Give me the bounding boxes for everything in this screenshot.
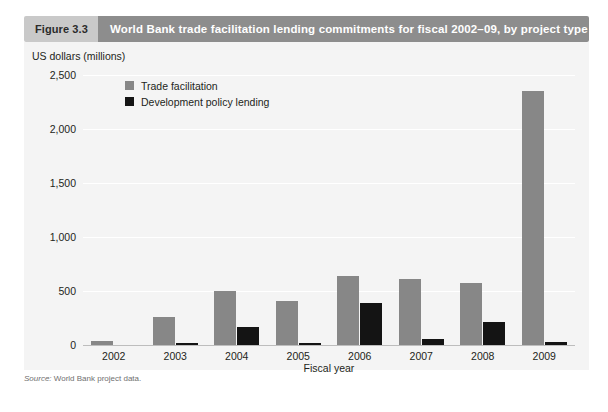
x-tick-label: 2003: [164, 350, 187, 362]
y-tick-label: 1,000: [50, 231, 76, 243]
x-tick-label: 2002: [102, 350, 125, 362]
bar: [337, 276, 359, 345]
x-tick-label: 2006: [348, 350, 371, 362]
figure-number-label: Figure 3.3: [24, 16, 98, 42]
bar: [91, 341, 113, 345]
bar-group: [452, 75, 514, 345]
legend-item: Trade facilitation: [125, 79, 269, 92]
bar-group: [206, 75, 268, 345]
x-tick-label: 2004: [225, 350, 248, 362]
bar: [545, 342, 567, 345]
bar: [299, 343, 321, 346]
x-tick-label: 2005: [287, 350, 310, 362]
x-tick-label: 2007: [410, 350, 433, 362]
legend-swatch-icon: [125, 81, 134, 90]
bar-group: [268, 75, 330, 345]
x-tick-label: 2009: [533, 350, 556, 362]
legend-label: Development policy lending: [141, 96, 269, 108]
bar: [483, 322, 505, 345]
chart-legend: Trade facilitationDevelopment policy len…: [125, 79, 269, 111]
source-note: Source: World Bank project data.: [24, 374, 141, 383]
legend-item: Development policy lending: [125, 95, 269, 108]
chart-panel: US dollars (millions) 05001,0001,5002,00…: [24, 42, 589, 370]
bar-group: [391, 75, 453, 345]
figure-container: Figure 3.3 World Bank trade facilitation…: [0, 0, 608, 412]
y-tick-label: 1,500: [50, 177, 76, 189]
bar: [522, 91, 544, 345]
bar-group: [514, 75, 576, 345]
bar-group: [329, 75, 391, 345]
bar: [237, 327, 259, 345]
source-prefix: Source:: [24, 374, 52, 383]
bar: [422, 339, 444, 345]
figure-header: Figure 3.3 World Bank trade facilitation…: [24, 16, 589, 42]
bar: [399, 279, 421, 345]
y-tick-label: 500: [58, 285, 76, 297]
bar: [276, 301, 298, 345]
x-tick-label: 2008: [471, 350, 494, 362]
bar: [360, 303, 382, 345]
y-axis-ticks: 05001,0001,5002,0002,500: [24, 75, 76, 345]
x-axis-title: Fiscal year: [83, 362, 575, 374]
legend-swatch-icon: [125, 97, 134, 106]
bar: [176, 343, 198, 346]
bar: [460, 283, 482, 345]
y-axis-title: US dollars (millions): [32, 50, 125, 62]
plot-area: [83, 75, 575, 345]
source-text: World Bank project data.: [54, 374, 141, 383]
bar-group: [145, 75, 207, 345]
bar: [214, 291, 236, 345]
y-tick-label: 2,500: [50, 69, 76, 81]
legend-label: Trade facilitation: [141, 80, 218, 92]
y-tick-label: 2,000: [50, 123, 76, 135]
figure-title: World Bank trade facilitation lending co…: [98, 16, 589, 42]
y-tick-label: 0: [70, 339, 76, 351]
bar-group: [83, 75, 145, 345]
bar: [153, 317, 175, 345]
